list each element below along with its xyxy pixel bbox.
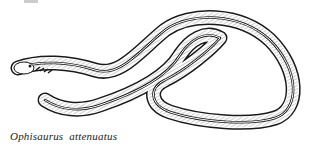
species-illustration: Ophisaurus attenuatus	[0, 0, 313, 153]
head	[14, 62, 34, 74]
figure-caption: Ophisaurus attenuatus	[10, 130, 117, 142]
eye	[29, 65, 32, 68]
